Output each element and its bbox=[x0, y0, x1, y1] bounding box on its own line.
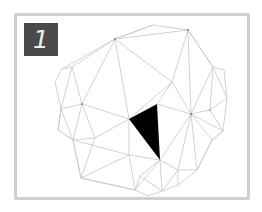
highlighted-triangle bbox=[129, 104, 160, 160]
triangulated-mesh bbox=[0, 0, 262, 212]
